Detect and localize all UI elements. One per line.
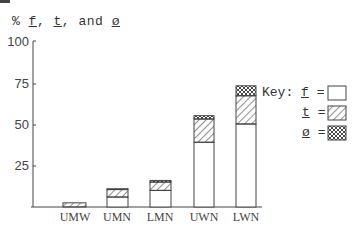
bar-uwn-blank <box>194 142 214 207</box>
key-box-t <box>328 106 346 120</box>
bar-lwn-cross-hatch <box>236 86 256 96</box>
bar-lwn-blank <box>236 124 256 207</box>
bar-umn-cross-hatch <box>107 189 128 190</box>
bar-uwn-diagonal-hatch <box>194 119 214 142</box>
key-symbol-f: f <box>301 85 309 100</box>
bar-lwn-diagonal-hatch <box>236 96 256 124</box>
bar-umw-diagonal-hatch <box>63 203 86 207</box>
bar-lmn-diagonal-hatch <box>150 182 171 190</box>
key-eq-phi: = <box>318 125 326 140</box>
key-box-phi <box>328 126 346 140</box>
bar-umn-blank <box>107 197 128 207</box>
key-eq-t: = <box>318 105 326 120</box>
key-legend: Key: f = <box>262 85 324 100</box>
key-row-t: t = <box>302 105 325 120</box>
key-row-phi: ø = <box>302 125 325 140</box>
x-label-uwn: UWN <box>184 210 224 225</box>
bar-umn-diagonal-hatch <box>107 190 128 197</box>
x-label-umn: UMN <box>97 210 137 225</box>
key-symbol-phi: ø <box>302 125 310 140</box>
x-label-lwn: LWN <box>226 210 266 225</box>
key-eq-f: = <box>317 85 325 100</box>
key-symbol-t: t <box>302 105 310 120</box>
key-title: Key: <box>262 85 293 100</box>
bar-uwn-cross-hatch <box>194 116 214 119</box>
bar-lmn-cross-hatch <box>150 180 171 182</box>
x-label-lmn: LMN <box>140 210 180 225</box>
key-box-f <box>328 86 346 100</box>
bar-lmn-blank <box>150 190 171 207</box>
x-label-umw: UMW <box>55 210 95 225</box>
